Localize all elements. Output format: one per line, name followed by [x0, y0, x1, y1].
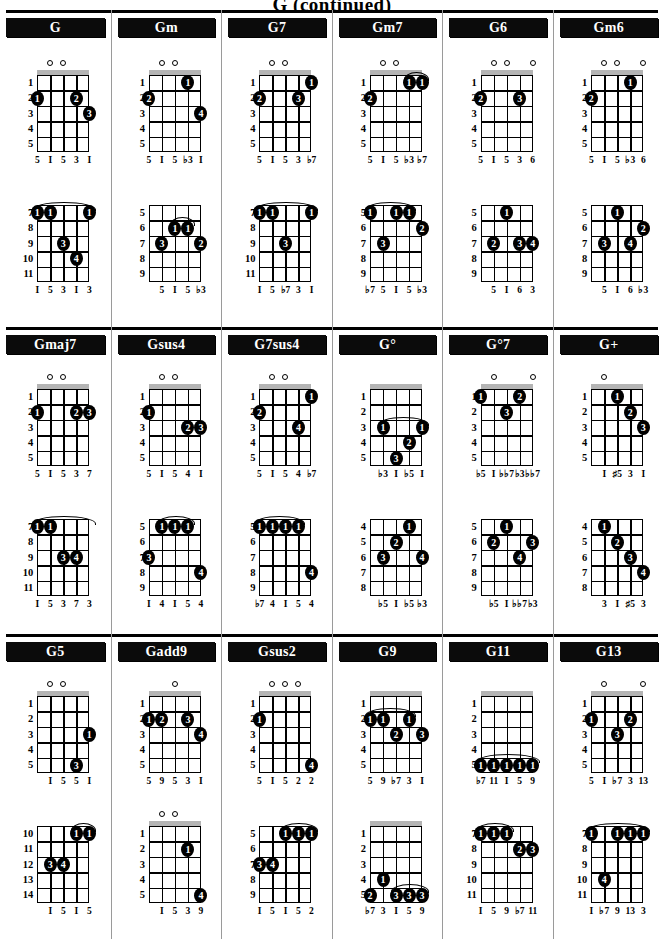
chord-card[interactable]: G7sus4123451245I54♭75678911114♭74I54 — [221, 327, 332, 634]
fret-line — [37, 534, 89, 535]
finger-dot: 2 — [513, 842, 526, 857]
chord-card[interactable]: G9123451112359♭73I1234512333♭73I59 — [332, 634, 443, 939]
fret-line — [259, 420, 311, 421]
fret-number: 1 — [342, 829, 366, 839]
string-line — [76, 389, 77, 466]
fret-number: 3 — [563, 730, 587, 740]
chord-card[interactable]: G+12345123I♯53I4567812343I♯53 — [553, 327, 664, 634]
fret-line — [149, 888, 201, 889]
fret-number: 5 — [563, 139, 587, 149]
fret-number: 2 — [9, 714, 33, 724]
open-string-marker — [269, 681, 275, 687]
chord-card[interactable]: Gmaj7123451235I53778910111134I5373 — [0, 327, 111, 634]
finger-dot: 1 — [403, 75, 416, 90]
fret-line — [37, 137, 89, 138]
chord-card[interactable]: Gsus4123451235I54I5678911134I4I54 — [111, 327, 222, 634]
fret-number: 3 — [9, 730, 33, 740]
chord-card[interactable]: G°712345123♭5I♭♭7♭3♭♭7567891234♭5I♭♭7♭3 — [442, 327, 553, 634]
fret-number: 3 — [563, 109, 587, 119]
fret-number: 5 — [121, 139, 145, 149]
chord-card[interactable]: Gsus212345145I5225678911134I5I52 — [221, 634, 332, 939]
chord-card[interactable]: G51234513I55I10111213141134I5I5 — [0, 634, 111, 939]
finger-dot: 1 — [585, 826, 598, 841]
finger-dot: 2 — [253, 405, 266, 420]
fret-number: 5 — [9, 760, 33, 770]
chord-diagram: 789101111114I♭79133 — [554, 806, 664, 926]
open-string-marker — [504, 60, 510, 66]
chord-diagram: 10111213141134I5I5 — [0, 806, 111, 926]
chord-card[interactable]: Gm7123451125I5♭3♭75678911123♭75I5♭3 — [332, 10, 443, 327]
chord-card[interactable]: G7123451235I53♭778910111113I5♭73I — [221, 10, 332, 327]
interval-label: I — [413, 775, 431, 787]
string-line — [162, 826, 163, 903]
chord-card[interactable]: Gadd91234512345953I1234514I539 — [111, 634, 222, 939]
interval-row: ♭3I♭5I — [370, 468, 422, 480]
fret-number: 13 — [9, 875, 33, 885]
finger-dot: 3 — [83, 405, 96, 420]
fret-line — [37, 742, 89, 743]
interval-label: 11 — [524, 905, 542, 917]
fretboard-grid — [481, 75, 533, 152]
chord-card[interactable]: G612345235I5365678912345I63 — [442, 10, 553, 327]
interval-row: 5I54I — [149, 468, 201, 480]
fret-line — [37, 872, 89, 873]
fret-number: 1 — [453, 699, 477, 709]
finger-dot: 2 — [142, 91, 155, 106]
fret-number: 4 — [342, 522, 366, 532]
diagram-inner: 5678911134I5I52 — [231, 806, 323, 926]
string-line — [50, 389, 51, 466]
interval-row: 5I5♭3I — [149, 154, 201, 166]
finger-dot: 1 — [526, 758, 539, 773]
chord-card[interactable]: Gm612345125I5♭365678912345I6♭3 — [553, 10, 664, 327]
fret-number: 1 — [563, 78, 587, 88]
finger-dot: 1 — [611, 205, 624, 220]
chord-diagram: 123451112359♭73I — [333, 676, 444, 796]
chord-card[interactable]: G123451235I53I789101111134I53I3 — [0, 10, 111, 327]
diagram-inner: 4567812343I♯53 — [563, 499, 655, 619]
chord-card[interactable]: G°123451123♭3I♭5I456781234♭5I♭5♭3 — [332, 327, 443, 634]
finger-dot: 4 — [305, 758, 318, 773]
string-line — [63, 696, 64, 773]
finger-dot: 4 — [292, 420, 305, 435]
finger-dot: 1 — [168, 221, 181, 236]
fret-line — [149, 121, 201, 122]
fret-number: 8 — [453, 254, 477, 264]
chord-section: G51234513I55I10111213141134I5I5Gadd91234… — [0, 634, 664, 939]
finger-dot: 3 — [253, 857, 266, 872]
chord-card[interactable]: Gm123451245I5♭3I5678911325I5♭3 — [111, 10, 222, 327]
fret-line — [37, 581, 89, 582]
string-line — [175, 826, 176, 903]
chord-diagram: 4567812343I♯53 — [554, 499, 664, 619]
fret-number: 4 — [231, 745, 255, 755]
finger-dot: 1 — [403, 712, 416, 727]
fret-number: 9 — [563, 860, 587, 870]
interval-row: I59♭711 — [481, 905, 533, 917]
finger-dot: 1 — [611, 826, 624, 841]
interval-row: I5373 — [37, 598, 89, 610]
diagram-inner: 5678911134I4I54 — [121, 499, 213, 619]
open-string-marker — [282, 374, 288, 380]
fret-number: 5 — [453, 522, 477, 532]
interval-row: I53I3 — [37, 284, 89, 296]
interval-row: ♭5I♭♭7♭3 — [481, 598, 533, 610]
interval-label: 9 — [413, 905, 431, 917]
fret-number: 2 — [121, 844, 145, 854]
finger-dot: 2 — [487, 535, 500, 550]
fret-line — [481, 267, 533, 268]
chord-name-label: G7 — [228, 18, 326, 37]
chord-card[interactable]: G111234511111♭711I59789101111123I59♭711 — [442, 634, 553, 939]
fret-line — [37, 106, 89, 107]
finger-dot: 2 — [416, 221, 429, 236]
diagram-inner: 1234513I55I — [9, 676, 101, 796]
chord-card[interactable]: G13123451235I♭7313789101111114I♭79133 — [553, 634, 664, 939]
finger-dot: 2 — [624, 405, 637, 420]
chord-name-label: G7sus4 — [228, 335, 326, 354]
fret-number: 5 — [231, 139, 255, 149]
fret-number: 4 — [342, 875, 366, 885]
chord-diagram: 78910111113I5♭73I — [222, 185, 333, 305]
fret-number: 10 — [453, 875, 477, 885]
chord-diagram: 5678911134I4I54 — [112, 499, 223, 619]
fret-line — [259, 106, 311, 107]
finger-dot: 1 — [416, 75, 429, 90]
finger-dot: 1 — [487, 758, 500, 773]
